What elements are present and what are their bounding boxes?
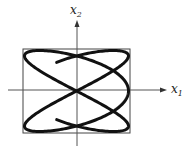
x1-label-text: x [171, 82, 178, 96]
x1-axis-label: x1 [171, 83, 183, 98]
phase-portrait [0, 0, 191, 155]
x1-axis-arrow-icon [160, 88, 167, 93]
x1-label-subscript: 1 [178, 89, 183, 98]
x2-axis-label: x2 [70, 4, 82, 19]
x2-label-text: x [70, 3, 77, 17]
x2-label-subscript: 2 [77, 10, 82, 19]
x2-axis-arrow-icon [75, 20, 80, 27]
